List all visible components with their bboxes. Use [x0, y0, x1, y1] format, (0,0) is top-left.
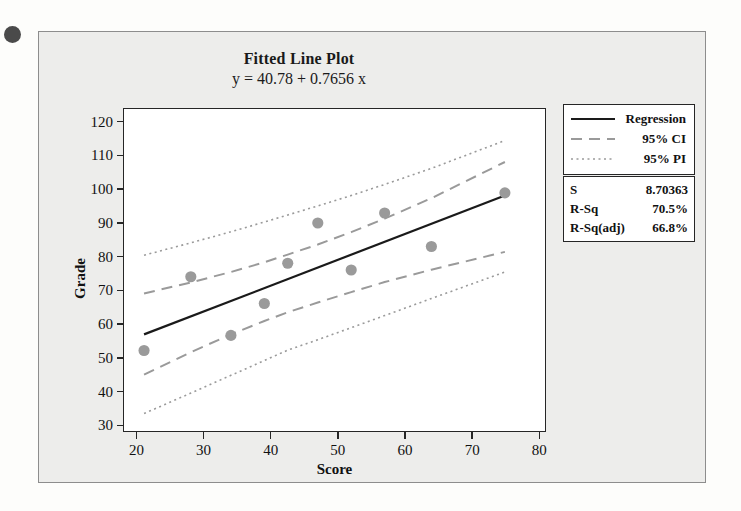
- chart-equation: y = 40.78 + 0.7656 x: [39, 70, 559, 88]
- legend-item: Regression: [570, 109, 688, 129]
- statistic-row: R-Sq70.5%: [570, 199, 688, 218]
- figure-panel: Fitted Line Plot y = 40.78 + 0.7656 x 30…: [38, 31, 706, 483]
- x-tick-label: 70: [465, 442, 480, 459]
- legend-item-label: Regression: [616, 111, 688, 127]
- data-point: [225, 330, 236, 341]
- x-tick-label: 60: [398, 442, 413, 459]
- x-tick-mark: [471, 432, 473, 439]
- statistic-row: R-Sq(adj)66.8%: [570, 218, 688, 237]
- legend-line-icon: [570, 133, 616, 145]
- x-axis-title: Score: [123, 461, 546, 478]
- data-point: [138, 345, 149, 356]
- x-tick-mark: [404, 432, 406, 439]
- x-tick-label: 20: [129, 442, 144, 459]
- y-tick-mark: [117, 155, 123, 157]
- y-tick-mark: [117, 357, 123, 359]
- x-tick-mark: [203, 432, 205, 439]
- data-point: [312, 217, 323, 228]
- figure-inner: Fitted Line Plot y = 40.78 + 0.7656 x 30…: [39, 32, 705, 482]
- data-point: [499, 187, 510, 198]
- data-point: [379, 207, 390, 218]
- data-point: [282, 258, 293, 269]
- data-point: [426, 241, 437, 252]
- chart-title: Fitted Line Plot: [39, 50, 559, 68]
- pi-lower-band: [144, 272, 505, 414]
- y-tick-label: 100: [75, 181, 113, 198]
- y-tick-mark: [117, 188, 123, 190]
- x-tick-mark: [539, 432, 541, 439]
- y-tick-label: 90: [75, 214, 113, 231]
- legend-item: 95% CI: [570, 129, 688, 149]
- legend-line-icon: [570, 153, 616, 165]
- page-bullet-dot: [4, 26, 21, 43]
- data-points: [138, 187, 510, 356]
- statistic-value: 70.5%: [652, 201, 688, 217]
- x-tick-label: 50: [330, 442, 345, 459]
- pi-upper-band: [144, 141, 505, 256]
- y-axis-title: Grade: [72, 234, 89, 324]
- statistic-key: R-Sq(adj): [570, 220, 625, 236]
- x-tick-mark: [270, 432, 272, 439]
- statistic-value: 8.70363: [646, 182, 688, 198]
- y-tick-mark: [117, 256, 123, 258]
- plot-area: [123, 108, 546, 432]
- data-point: [185, 271, 196, 282]
- legend-box: Regression95% CI95% PI: [563, 104, 695, 175]
- legend-item: 95% PI: [570, 149, 688, 169]
- legend-line-icon: [570, 113, 616, 125]
- statistic-key: S: [570, 182, 577, 198]
- data-point: [259, 298, 270, 309]
- statistics-box: S8.70363R-Sq70.5%R-Sq(adj)66.8%: [563, 176, 695, 242]
- legend-item-label: 95% PI: [616, 151, 688, 167]
- x-tick-label: 80: [532, 442, 547, 459]
- data-point: [346, 264, 357, 275]
- statistic-row: S8.70363: [570, 180, 688, 199]
- x-tick-mark: [337, 432, 339, 439]
- y-tick-mark: [117, 425, 123, 427]
- y-tick-label: 110: [75, 147, 113, 164]
- y-tick-label: 40: [75, 383, 113, 400]
- statistic-value: 66.8%: [652, 220, 688, 236]
- ci-upper-band: [144, 162, 505, 293]
- x-tick-mark: [136, 432, 138, 439]
- y-tick-label: 30: [75, 417, 113, 434]
- y-tick-mark: [117, 391, 123, 393]
- y-tick-mark: [117, 323, 123, 325]
- y-tick-mark: [117, 222, 123, 224]
- x-tick-label: 30: [196, 442, 211, 459]
- y-tick-mark: [117, 290, 123, 292]
- plot-canvas: [124, 109, 545, 431]
- y-tick-mark: [117, 121, 123, 123]
- legend-item-label: 95% CI: [616, 131, 688, 147]
- x-tick-label: 40: [263, 442, 278, 459]
- y-tick-label: 50: [75, 349, 113, 366]
- y-tick-label: 120: [75, 113, 113, 130]
- title-block: Fitted Line Plot y = 40.78 + 0.7656 x: [39, 50, 559, 88]
- statistic-key: R-Sq: [570, 201, 598, 217]
